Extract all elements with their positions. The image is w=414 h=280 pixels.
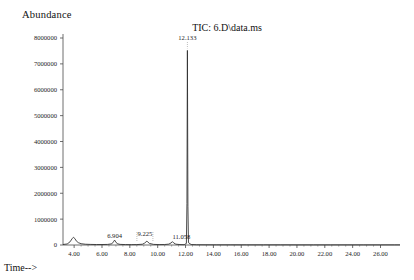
y-tick-label: 1000000 [34,216,58,223]
x-tick-label: 4.00 [68,250,80,257]
chromatogram-chart: Abundance TIC: 6.D\data.ms Time--> 01000… [0,0,414,280]
peak-label: 12.133 [178,34,197,41]
plot-area: 0100000020000003000000400000050000006000… [0,0,414,280]
x-tick-label: 18.00 [262,250,278,257]
peak-label: 11.058 [172,233,191,240]
y-tick-group: 0100000020000003000000400000050000006000… [34,34,63,248]
x-tick-label: 8.00 [124,250,136,257]
y-tick-label: 4000000 [34,138,58,145]
y-tick-label: 8000000 [34,34,58,41]
y-tick-label: 0 [54,241,58,248]
peak-label: 9.225 [137,230,153,237]
x-tick-label: 12.00 [178,250,194,257]
x-tick-label: 6.00 [96,250,108,257]
x-tick-label: 20.00 [290,250,306,257]
x-tick-label: 14.00 [206,250,222,257]
x-tick-label: 24.00 [345,250,361,257]
x-tick-label: 22.00 [317,250,333,257]
peak-label: 6.904 [107,232,123,239]
tic-trace [63,50,400,244]
y-axis-group: 0100000020000003000000400000050000006000… [34,34,63,248]
y-tick-label: 2000000 [34,190,58,197]
y-tick-label: 5000000 [34,112,58,119]
y-tick-label: 6000000 [34,86,58,93]
tic-trace-group [63,50,400,244]
x-tick-group: 4.006.008.0010.0012.0014.0016.0018.0020.… [68,245,388,257]
x-tick-label: 26.00 [373,250,389,257]
peak-label-group: 6.9049.22511.05812.133 [107,34,197,241]
x-tick-label: 16.00 [234,250,250,257]
y-tick-label: 3000000 [34,164,58,171]
y-tick-label: 7000000 [34,60,58,67]
x-tick-label: 10.00 [150,250,166,257]
x-axis-group: 4.006.008.0010.0012.0014.0016.0018.0020.… [63,245,400,257]
